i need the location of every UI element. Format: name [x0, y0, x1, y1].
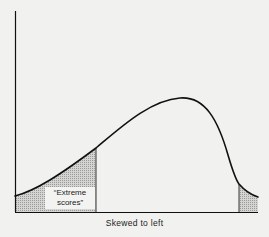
distribution-plot [0, 0, 269, 237]
extreme-scores-line1: “Extreme [45, 188, 95, 198]
figure-caption: Skewed to left [0, 218, 269, 228]
right-tail-shading [239, 184, 258, 212]
extreme-scores-line2: scores” [45, 198, 95, 208]
extreme-scores-label: “Extreme scores” [45, 187, 95, 209]
skewed-distribution-figure: “Extreme scores” Skewed to left [0, 0, 269, 237]
